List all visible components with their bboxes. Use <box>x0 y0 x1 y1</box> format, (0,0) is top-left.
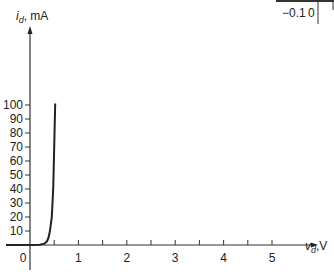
x-axis-label: vd,V <box>305 239 327 255</box>
y-ticks: 102030405060708090100 <box>3 98 30 238</box>
x-tick-label: 3 <box>172 251 179 265</box>
x-tick-label: 5 <box>269 251 276 265</box>
y-tick-label: 20 <box>10 210 24 224</box>
y-tick-label: 70 <box>10 140 24 154</box>
x-tick-label: 2 <box>123 251 130 265</box>
x-ticks: 012345 <box>20 240 276 265</box>
y-tick-label: 30 <box>10 196 24 210</box>
y-tick-label: 100 <box>3 98 23 112</box>
y-tick-label: 50 <box>10 168 24 182</box>
y-tick-label: 10 <box>10 224 24 238</box>
y-axis-label: id, mA <box>16 9 48 25</box>
x-tick-label: 0 <box>20 251 27 265</box>
x-tick-label: 1 <box>75 251 82 265</box>
inset-top-bar <box>276 0 334 2</box>
y-tick-label: 80 <box>10 126 24 140</box>
inset-tick-label-neg: −0.1 <box>282 6 306 20</box>
y-tick-label: 40 <box>10 182 24 196</box>
y-axis-arrow-icon <box>28 26 33 34</box>
x-tick-label: 4 <box>220 251 227 265</box>
y-tick-label: 90 <box>10 112 24 126</box>
axes <box>6 26 318 270</box>
axis-labels: id, mAvd,V <box>16 9 327 255</box>
y-tick-label: 60 <box>10 154 24 168</box>
diode-iv-chart: −0.1 0 012345 102030405060708090100 id, … <box>0 0 334 277</box>
inset-axis-fragment: −0.1 0 <box>276 0 334 24</box>
inset-tick-label-zero: 0 <box>308 6 315 20</box>
